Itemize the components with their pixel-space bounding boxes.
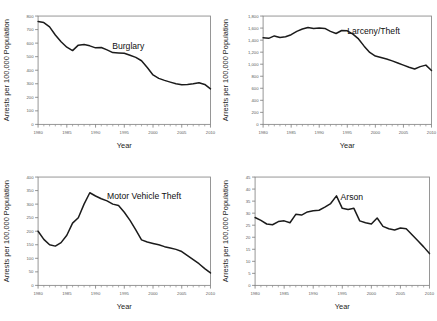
x-tick-label: 1995 — [120, 130, 130, 135]
y-tick-label: 100 — [26, 255, 34, 260]
x-tick-label: 1990 — [91, 130, 101, 135]
x-tick-label: 2010 — [206, 130, 216, 135]
series-label: Burglary — [112, 41, 145, 51]
panel-motor-vehicle-theft: 1980198519901995200020052010050100150200… — [0, 161, 219, 321]
x-tick-label: 2000 — [366, 291, 376, 296]
y-tick-label: 0 — [248, 282, 251, 287]
x-tick-label: 1980 — [258, 130, 268, 135]
multi-panel-chart-figure: 1980198519901995200020052010010020030040… — [0, 0, 437, 321]
y-tick-label: 200 — [26, 228, 34, 233]
y-tick-label: 250 — [26, 215, 34, 220]
x-tick-label: 1980 — [33, 130, 43, 135]
x-tick-label: 2005 — [177, 130, 187, 135]
x-tick-label: 1990 — [308, 291, 318, 296]
x-tick-label: 1980 — [250, 291, 260, 296]
y-tick-label: 1,600 — [247, 26, 258, 31]
y-tick-label: 10 — [245, 258, 250, 263]
plot-area-frame — [38, 16, 210, 124]
y-tick-label: 300 — [26, 81, 34, 86]
series-label: Larceny/Theft — [347, 26, 400, 36]
y-tick-label: 700 — [26, 27, 34, 32]
x-tick-label: 2000 — [148, 291, 158, 296]
x-tick-label: 1985 — [279, 291, 289, 296]
y-tick-label: 400 — [26, 174, 34, 179]
x-tick-label: 2000 — [370, 130, 380, 135]
y-tick-label: 40 — [245, 186, 250, 191]
y-tick-label: 1,000 — [247, 62, 258, 67]
y-tick-label: 100 — [26, 108, 34, 113]
x-tick-label: 1980 — [33, 291, 43, 296]
x-tick-label: 2010 — [424, 291, 434, 296]
x-tick-label: 2010 — [426, 130, 436, 135]
series-label: Motor Vehicle Theft — [107, 190, 182, 200]
y-tick-label: 350 — [26, 188, 34, 193]
y-tick-label: 800 — [251, 74, 259, 79]
y-tick-label: 150 — [26, 242, 34, 247]
y-tick-label: 200 — [251, 110, 259, 115]
y-tick-label: 500 — [26, 54, 34, 59]
y-tick-label: 200 — [26, 95, 34, 100]
panel-burglary: 1980198519901995200020052010010020030040… — [0, 0, 219, 161]
x-axis-title: Year — [334, 302, 349, 311]
y-tick-label: 0 — [256, 122, 259, 127]
x-tick-label: 2010 — [206, 291, 216, 296]
y-tick-label: 5 — [248, 270, 251, 275]
y-tick-label: 50 — [29, 269, 34, 274]
y-tick-label: 1,400 — [247, 38, 258, 43]
x-tick-label: 1985 — [62, 291, 72, 296]
y-tick-label: 400 — [251, 98, 259, 103]
y-axis-title: Arrests per 100,000 Population — [2, 180, 11, 282]
y-axis-title: Arrests per 100,000 Population — [221, 19, 230, 121]
panel-arson: 1980198519901995200020052010051015202530… — [219, 161, 437, 321]
y-tick-label: 30 — [245, 210, 250, 215]
motor-vehicle-theft-chart: 1980198519901995200020052010050100150200… — [0, 161, 219, 321]
y-axis-title: Arrests per 100,000 Population — [2, 19, 11, 121]
y-tick-label: 400 — [26, 68, 34, 73]
x-axis-title: Year — [339, 141, 354, 150]
x-tick-label: 1995 — [120, 291, 130, 296]
x-tick-label: 1990 — [314, 130, 324, 135]
x-tick-label: 1985 — [62, 130, 72, 135]
x-tick-label: 1990 — [91, 291, 101, 296]
y-tick-label: 600 — [251, 86, 259, 91]
y-tick-label: 1,800 — [247, 14, 258, 19]
x-axis-title: Year — [117, 302, 132, 311]
x-tick-label: 2000 — [148, 130, 158, 135]
y-tick-label: 45 — [245, 174, 250, 179]
x-tick-label: 2005 — [395, 291, 405, 296]
burglary-chart: 1980198519901995200020052010010020030040… — [0, 0, 219, 161]
y-axis-title: Arrests per 100,000 Population — [221, 180, 230, 282]
y-tick-label: 800 — [26, 14, 34, 19]
y-tick-label: 1,200 — [247, 50, 258, 55]
larceny-theft-chart: 1980198519901995200020052010020040060080… — [219, 0, 437, 161]
y-tick-label: 0 — [31, 282, 34, 287]
x-tick-label: 1995 — [337, 291, 347, 296]
y-tick-label: 15 — [245, 246, 250, 251]
y-tick-label: 35 — [245, 198, 250, 203]
y-tick-label: 300 — [26, 201, 34, 206]
series-label: Arson — [340, 191, 363, 201]
x-tick-label: 2005 — [398, 130, 408, 135]
x-tick-label: 1985 — [286, 130, 296, 135]
y-tick-label: 20 — [245, 234, 250, 239]
x-tick-label: 1995 — [342, 130, 352, 135]
y-tick-label: 0 — [31, 122, 34, 127]
y-tick-label: 600 — [26, 41, 34, 46]
arson-chart: 1980198519901995200020052010051015202530… — [219, 161, 437, 321]
y-tick-label: 25 — [245, 222, 250, 227]
x-axis-title: Year — [117, 141, 132, 150]
x-tick-label: 2005 — [177, 291, 187, 296]
panel-larceny-theft: 1980198519901995200020052010020040060080… — [219, 0, 437, 161]
